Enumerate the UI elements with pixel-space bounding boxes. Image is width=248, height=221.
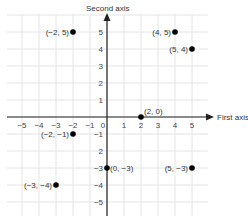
y-tick-label: 1 xyxy=(99,96,104,105)
x-axis-arrow-icon xyxy=(206,114,214,121)
point-label: (5, 4) xyxy=(169,45,188,54)
y-tick-label: 2 xyxy=(99,79,104,88)
data-point xyxy=(189,46,195,52)
y-axis-label: Second axis xyxy=(86,4,130,13)
x-tick-label: 2 xyxy=(139,121,144,130)
x-tick-label: −2 xyxy=(68,121,78,130)
y-tick-label: 5 xyxy=(99,28,104,37)
y-tick-label: −3 xyxy=(94,164,104,173)
y-tick-label: −4 xyxy=(94,181,104,190)
data-point xyxy=(172,29,178,35)
point-label: (4, 5) xyxy=(152,28,171,37)
x-tick-label: 5 xyxy=(190,121,195,130)
y-tick-label: 4 xyxy=(99,45,104,54)
x-tick-label: 3 xyxy=(156,121,161,130)
x-tick-label: 4 xyxy=(173,121,178,130)
y-axis-arrow-icon xyxy=(104,13,111,21)
x-axis-label: First axis xyxy=(217,113,248,122)
data-point xyxy=(70,131,76,137)
data-point xyxy=(70,29,76,35)
y-tick-label: −5 xyxy=(94,198,104,207)
data-point xyxy=(189,165,195,171)
point-label: (0, −3) xyxy=(110,164,134,173)
data-point xyxy=(53,182,59,188)
point-label: (2, 0) xyxy=(144,107,163,116)
x-tick-label: 1 xyxy=(122,121,127,130)
data-point xyxy=(104,165,110,171)
y-tick-label: 3 xyxy=(99,62,104,71)
x-tick-label: −4 xyxy=(34,121,44,130)
x-tick-label: −3 xyxy=(51,121,61,130)
x-tick-label: −1 xyxy=(85,121,95,130)
points: (−2, 5)(4, 5)(5, 4)(2, 0)(−2, −1)(0, −3)… xyxy=(24,28,195,190)
y-tick-label: 2 xyxy=(99,147,104,156)
data-point xyxy=(138,114,144,120)
y-tick-label: −1 xyxy=(94,130,104,139)
point-label: (−2, −1) xyxy=(41,130,69,139)
coordinate-plane: First axis Second axis −5−4−3−2−10123455… xyxy=(0,0,248,221)
x-tick-label: 0 xyxy=(101,121,106,130)
point-label: (−3, −4) xyxy=(24,181,52,190)
x-tick-label: −5 xyxy=(17,121,27,130)
point-label: (−2, 5) xyxy=(46,28,70,37)
point-label: (5, −3) xyxy=(165,164,189,173)
